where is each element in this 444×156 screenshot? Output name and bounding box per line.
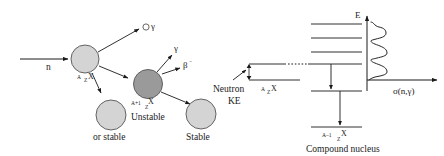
- svg-text:X: X: [271, 84, 277, 93]
- svg-text:−: −: [189, 58, 192, 64]
- svg-text:A: A: [77, 74, 81, 80]
- compound-nucleus: [134, 70, 163, 99]
- cross-section-axis-label: σ(n,γ): [393, 86, 415, 96]
- ground-level-label: A–1 Z X: [322, 129, 347, 142]
- neutron-ke-bracket: [247, 64, 252, 80]
- scatter-gamma-label: γ: [150, 21, 155, 31]
- decay-to-stable-arrow: [161, 92, 190, 104]
- svg-text:A–1: A–1: [322, 132, 332, 138]
- beta-minus-arrow: [162, 68, 180, 74]
- svg-text:X: X: [148, 97, 154, 106]
- scatter-gamma-arrow: [98, 29, 139, 52]
- svg-text:β: β: [183, 60, 188, 70]
- scatter-gamma-particle-icon: [143, 24, 149, 30]
- capture-arrow: [99, 66, 128, 78]
- unstable-caption: Unstable: [131, 112, 165, 122]
- target-level-label: A Z X: [261, 84, 277, 95]
- final-stable-nucleus: [186, 99, 216, 129]
- beta-minus-label: β −: [183, 58, 192, 70]
- stable-caption: Stable: [186, 132, 210, 142]
- resonance-curve: [369, 22, 387, 80]
- energy-level-ladder: [308, 24, 362, 127]
- neutron-ke-label-line1: Neutron: [213, 84, 244, 94]
- compound-nucleus-caption: Compound nucleus: [306, 144, 380, 154]
- svg-text:X: X: [88, 72, 94, 81]
- nuclear-reaction-diagram: n A Z X A+1 Z X Unstable or stable Stabl…: [0, 0, 444, 156]
- neutron-ke-arrow: [233, 70, 246, 80]
- svg-text:A: A: [261, 86, 265, 92]
- neutron-ke-label-line2: KE: [228, 96, 241, 106]
- decay-gamma-arrow: [157, 55, 172, 72]
- target-nucleus: [71, 45, 99, 73]
- target-nucleus-label: A Z X: [77, 72, 94, 83]
- svg-text:A+1: A+1: [131, 100, 141, 106]
- or-stable-caption: or stable: [93, 132, 125, 142]
- neutron-label: n: [46, 62, 51, 72]
- or-stable-nucleus: [96, 100, 126, 130]
- svg-text:X: X: [341, 129, 347, 138]
- decay-gamma-label: γ: [173, 43, 178, 53]
- energy-axis-label: E: [355, 10, 361, 20]
- compound-nucleus-label: A+1 Z X: [131, 97, 154, 110]
